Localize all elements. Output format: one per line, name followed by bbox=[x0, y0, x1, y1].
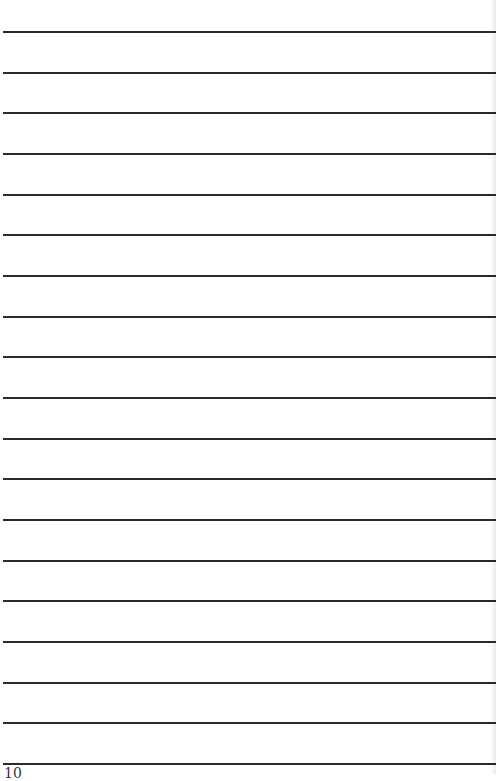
ruled-line bbox=[3, 722, 496, 724]
ruled-line bbox=[3, 194, 496, 196]
ruled-line bbox=[3, 560, 496, 562]
ruled-line bbox=[3, 234, 496, 236]
ruled-line bbox=[3, 153, 496, 155]
page-edge-shadow bbox=[490, 0, 496, 774]
ruled-line bbox=[3, 31, 496, 33]
ruled-line bbox=[3, 600, 496, 602]
ruled-line bbox=[3, 478, 496, 480]
ruled-line bbox=[3, 682, 496, 684]
ruled-line bbox=[3, 356, 496, 358]
ruled-line bbox=[3, 316, 496, 318]
page-number: 10 bbox=[4, 766, 22, 780]
ruled-line bbox=[3, 72, 496, 74]
ruled-line bbox=[3, 438, 496, 440]
ruled-line bbox=[3, 519, 496, 521]
ruled-line bbox=[3, 112, 496, 114]
ruled-line bbox=[3, 275, 496, 277]
ruled-line bbox=[3, 641, 496, 643]
ruled-line bbox=[3, 763, 496, 765]
ruled-line bbox=[3, 397, 496, 399]
